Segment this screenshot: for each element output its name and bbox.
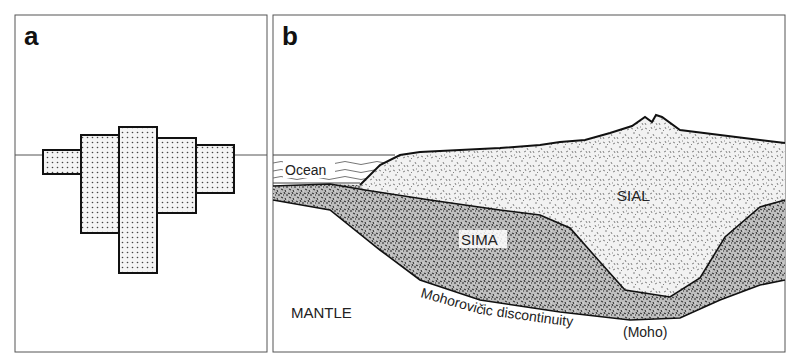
panel-a: a	[15, 15, 267, 352]
sial-label: SIAL	[617, 187, 650, 204]
panel-b-letter: b	[282, 21, 298, 51]
block-5	[196, 145, 234, 193]
panel-b: b Ocean SIAL SIMA MANTLE Mohorovičic dis…	[273, 15, 785, 352]
ocean-label: Ocean	[285, 162, 326, 178]
block-4	[157, 138, 196, 213]
moho-abbr-label: (Moho)	[623, 324, 667, 340]
isostasy-figure: a b Ocean SIAL	[0, 0, 800, 364]
mantle-label: MANTLE	[291, 304, 352, 321]
block-1	[43, 150, 81, 174]
block-2	[81, 135, 119, 233]
sima-label: SIMA	[461, 231, 498, 248]
panel-a-letter: a	[24, 21, 39, 51]
block-3	[119, 127, 157, 273]
